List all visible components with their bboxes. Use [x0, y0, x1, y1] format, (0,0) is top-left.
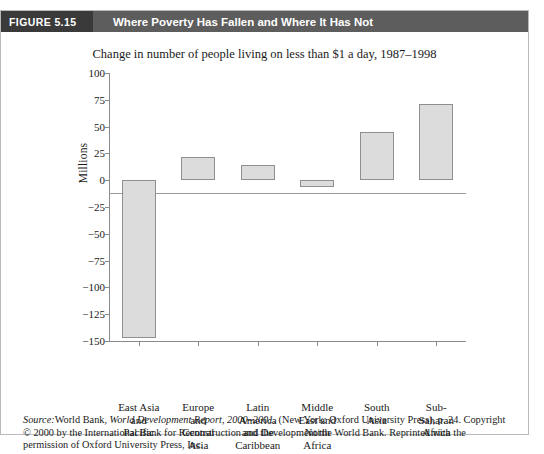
y-tick-label: 100 [71, 68, 105, 78]
y-tick-label: −25 [71, 202, 105, 212]
y-tick-label: 25 [71, 148, 105, 158]
y-tick-mark [105, 234, 110, 235]
x-tick-mark [436, 341, 437, 346]
chart-bar [241, 165, 275, 180]
y-tick-label: 75 [71, 95, 105, 105]
figure-card: FIGURE 5.15 Where Poverty Has Fallen and… [0, 10, 529, 435]
source-note: Source:World Bank, World Development Rep… [23, 414, 507, 452]
x-tick-mark [377, 341, 378, 346]
x-axis-line [109, 341, 466, 342]
figure-title: Where Poverty Has Fallen and Where It Ha… [113, 16, 373, 28]
y-tick-mark [105, 261, 110, 262]
figure-number-box: FIGURE 5.15 [1, 11, 93, 32]
chart-plot-area: Millions 1007550250−25−50−75−100−125−150… [1, 63, 528, 358]
zero-baseline [109, 193, 466, 194]
y-tick-label: −75 [71, 256, 105, 266]
y-tick-label: 50 [71, 122, 105, 132]
chart-bar [300, 180, 334, 186]
y-tick-mark [105, 100, 110, 101]
x-tick-mark [317, 341, 318, 346]
source-publisher: World Bank, [55, 414, 110, 425]
x-tick-mark [258, 341, 259, 346]
x-axis-label-line: Sub- [400, 401, 472, 414]
figure-header-bar: FIGURE 5.15 Where Poverty Has Fallen and… [1, 11, 528, 32]
y-tick-mark [105, 127, 110, 128]
y-tick-label: −100 [71, 282, 105, 292]
chart-subtitle: Change in number of people living on les… [1, 47, 528, 62]
x-tick-mark [139, 341, 140, 346]
y-tick-mark [105, 73, 110, 74]
chart-bar [181, 157, 215, 181]
chart-bar [122, 180, 156, 338]
y-tick-mark [105, 207, 110, 208]
chart-axes [109, 63, 469, 358]
y-tick-label: −150 [71, 336, 105, 346]
y-tick-mark [105, 287, 110, 288]
y-tick-mark [105, 341, 110, 342]
y-tick-label: 0 [71, 175, 105, 185]
x-tick-mark [198, 341, 199, 346]
y-tick-label: −50 [71, 229, 105, 239]
chart-bar [360, 132, 394, 180]
source-label: Source: [23, 414, 55, 425]
y-tick-label: −125 [71, 309, 105, 319]
source-report-title: World Development Report, 2000–2001 [110, 414, 274, 425]
chart-bar [419, 104, 453, 180]
y-axis-tick-labels: 1007550250−25−50−75−100−125−150 [71, 63, 105, 358]
y-tick-mark [105, 153, 110, 154]
y-tick-mark [105, 314, 110, 315]
y-tick-mark [105, 180, 110, 181]
figure-number-label: FIGURE 5.15 [9, 16, 76, 28]
